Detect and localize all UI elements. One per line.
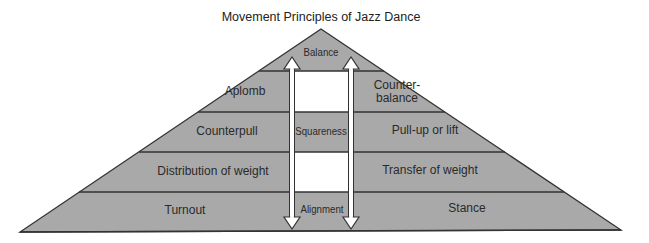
level3-left-label: Distribution of weight [157, 165, 268, 178]
level4-center-label: Alignment [301, 204, 344, 216]
level1-right-label: Counter- balance [374, 79, 421, 105]
white-box-lower [294, 152, 349, 192]
level2-left-label: Counterpull [196, 125, 257, 138]
diagram-title: Movement Principles of Jazz Dance [222, 11, 421, 25]
level1-right-line2: balance [374, 92, 421, 105]
apex-label: Balance [304, 47, 339, 59]
level2-right-label: Pull-up or lift [392, 124, 459, 137]
level4-right-label: Stance [448, 202, 485, 215]
level3-right-label: Transfer of weight [382, 164, 478, 177]
white-box-upper [294, 71, 349, 112]
level2-center-label: Squareness [295, 126, 347, 138]
level1-left-label: Aplomb [225, 85, 266, 98]
level4-left-label: Turnout [165, 204, 206, 217]
